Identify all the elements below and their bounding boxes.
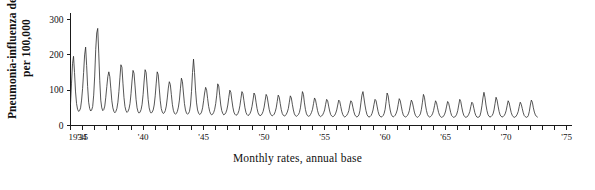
x-tick-label: '45 (198, 132, 209, 142)
x-tick-label: '50 (259, 132, 270, 142)
x-axis-caption: Monthly rates, annual base (0, 152, 595, 164)
x-tick-label: '65 (440, 132, 451, 142)
x-tick-label: '35 (77, 132, 88, 142)
y-axis-title: Pneumonia-influenza deaths per 100,000 (6, 0, 40, 123)
x-tick-label: '75 (561, 132, 572, 142)
y-tick-label: 100 (49, 85, 64, 95)
x-tick-label: '70 (501, 132, 512, 142)
x-tick-label: '55 (319, 132, 330, 142)
y-axis-title-line1: Pneumonia-influenza deaths (6, 0, 20, 123)
axis-lines (71, 13, 572, 126)
pneumonia-influenza-chart: Pneumonia-influenza deaths per 100,000 0… (0, 0, 595, 190)
data-series-line (71, 28, 538, 117)
x-tick-group: 1934'35'40'45'50'55'60'65'70'75 (69, 126, 573, 142)
y-tick-label: 300 (49, 15, 64, 25)
y-tick-label: 200 (49, 50, 64, 60)
y-tick-label: 0 (59, 121, 64, 131)
y-tick-group: 0100200300 (49, 15, 70, 131)
x-tick-label: '40 (138, 132, 149, 142)
y-axis-title-line2: per 100,000 (20, 0, 34, 123)
x-tick-label: '60 (380, 132, 391, 142)
